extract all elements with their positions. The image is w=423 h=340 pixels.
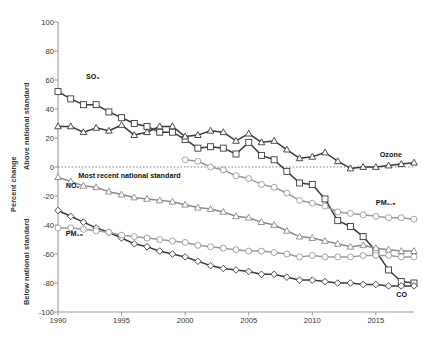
chart-container: Percent change Above national standard B… (0, 0, 423, 340)
series-label-Ozone: Ozone (380, 150, 402, 159)
series-label-CO: CO (396, 290, 407, 299)
series-label-PM10: PM₁₀ (66, 229, 83, 238)
series-label-SO2: SO₂ (86, 72, 100, 81)
series-label-NO2: NO₂ (66, 181, 80, 190)
annotation-most-recent-standard: Most recent national standard (78, 171, 180, 180)
series-label-PM2.5: PM₂.₅ (376, 198, 396, 207)
annotation-layer: SO₂OzoneNO₂COPM₁₀PM₂.₅Most recent nation… (0, 0, 423, 340)
